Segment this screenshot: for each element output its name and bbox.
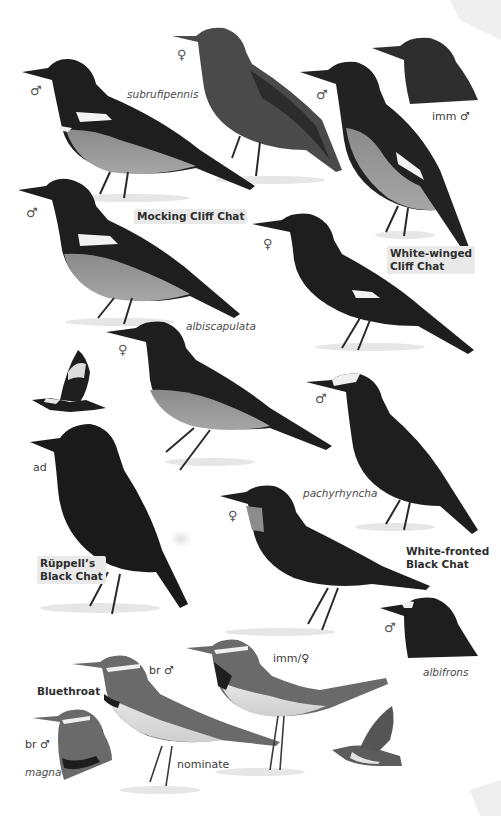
age-label-br-male-nominate: br ♂	[149, 664, 174, 677]
bird-ruppells-black-chat	[30, 424, 188, 614]
age-label-br-male-magna: br ♂	[25, 738, 50, 751]
page-shadow	[450, 0, 501, 40]
bird-bluethroat-flying	[332, 706, 402, 766]
bird-flying-ruppells	[32, 350, 106, 412]
subspecies-label-subrufipennis: subrufipennis	[127, 88, 198, 101]
subspecies-label-albiscapulata: albiscapulata	[186, 320, 256, 333]
field-guide-plate: ♂ subrufipennis ♀ ♂ imm ♂ ♂ Mocking Clif…	[0, 0, 501, 816]
species-name-white-winged-cliff-chat: White-winged Cliff Chat	[387, 246, 475, 274]
age-label-adult: ad	[33, 461, 47, 474]
paper-smudge	[170, 530, 192, 548]
sex-symbol-male: ♂	[316, 88, 328, 101]
bird-wwcc-imm-male-head	[372, 38, 478, 104]
sex-symbol-female: ♀	[263, 237, 273, 250]
age-label-imm-male: imm ♂	[432, 110, 470, 123]
species-name-ruppells-black-chat: Rüppell’s Black Chat	[37, 556, 106, 584]
sex-symbol-female: ♀	[228, 509, 238, 522]
sex-symbol-female: ♀	[177, 48, 187, 61]
species-name-white-fronted-black-chat: White-fronted Black Chat	[403, 544, 492, 572]
bird-wfbc-male-pachyrhyncha	[306, 374, 478, 534]
age-label-imm-female: imm/♀	[273, 652, 309, 665]
species-name-bluethroat: Bluethroat	[34, 684, 103, 699]
sex-symbol-female: ♀	[118, 343, 128, 356]
subspecies-label-nominate: nominate	[177, 758, 229, 771]
species-name-mocking-cliff-chat: Mocking Cliff Chat	[134, 209, 247, 224]
page-shadow	[470, 780, 501, 816]
subspecies-label-magna: magna	[25, 766, 61, 779]
sex-symbol-male: ♂	[384, 621, 396, 634]
bird-wwcc-female	[252, 214, 474, 354]
bird-albiscapulata-female	[106, 322, 332, 470]
sex-symbol-male: ♂	[30, 84, 42, 97]
sex-symbol-male: ♂	[26, 206, 38, 219]
subspecies-label-albifrons: albifrons	[423, 666, 469, 679]
sex-symbol-male: ♂	[315, 392, 327, 405]
subspecies-label-pachyrhyncha: pachyrhyncha	[303, 487, 377, 500]
